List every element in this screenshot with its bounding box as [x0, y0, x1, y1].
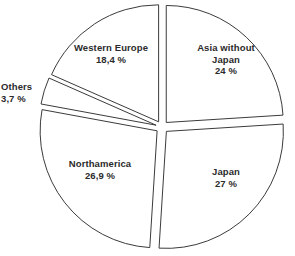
pie-slice-japan[interactable] — [159, 124, 283, 248]
pie-chart: Asia without Japan 24 % Japan 27 % North… — [0, 0, 295, 256]
pie-chart-svg — [0, 0, 295, 256]
pie-slice-northamerica[interactable] — [40, 110, 157, 248]
pie-slice-asia-without-japan[interactable] — [166, 5, 283, 122]
